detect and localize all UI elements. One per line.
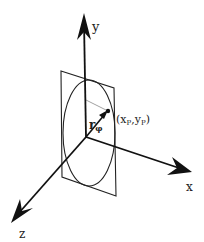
y-axis-label: y xyxy=(91,19,100,34)
y-axis xyxy=(84,22,86,137)
projection-guide-line xyxy=(86,100,108,111)
z-axis-arrow-icon xyxy=(11,199,33,223)
z-axis xyxy=(18,137,86,214)
x-axis xyxy=(86,137,182,169)
x-axis-label: x xyxy=(186,180,193,194)
point-label-close: ) xyxy=(146,113,150,126)
coordinate-diagram: y x z (xP,yP) rφ xyxy=(0,0,204,242)
point-p xyxy=(106,109,110,113)
radius-label-sub: φ xyxy=(95,123,102,133)
point-label: (xP,yP) xyxy=(116,113,150,127)
z-axis-label: z xyxy=(19,227,25,241)
